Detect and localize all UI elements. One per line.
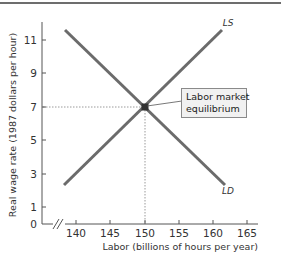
svg-text:5: 5: [30, 134, 37, 146]
svg-text:3: 3: [30, 168, 37, 180]
svg-text:165: 165: [237, 227, 257, 239]
labor-market-chart: 11 9 7 5 3 1 0 140 145 150 155 160 165 L…: [0, 0, 281, 258]
svg-text:1: 1: [30, 201, 37, 213]
svg-text:Labor market: Labor market: [186, 91, 250, 102]
x-ticks: [76, 220, 247, 224]
axis-break-icon: [53, 219, 65, 229]
callout-leader: [147, 101, 182, 106]
x-tick-labels: 140 145 150 155 160 165: [66, 227, 257, 239]
y-tick-labels: 11 9 7 5 3 1 0: [24, 34, 37, 230]
svg-text:140: 140: [66, 227, 86, 239]
svg-text:150: 150: [135, 227, 155, 239]
y-axis-title: Real wage rate (1987 dollars per hour): [7, 33, 18, 217]
ls-label: LS: [223, 18, 234, 28]
x-axis-title: Labor (billions of hours per year): [102, 241, 258, 252]
svg-text:160: 160: [203, 227, 223, 239]
svg-text:155: 155: [169, 227, 189, 239]
svg-text:equilibrium: equilibrium: [186, 103, 240, 114]
svg-text:11: 11: [24, 34, 37, 46]
ld-label: LD: [222, 186, 234, 196]
equilibrium-callout: Labor market equilibrium: [182, 89, 250, 118]
svg-text:9: 9: [30, 67, 37, 79]
svg-text:7: 7: [30, 101, 37, 113]
svg-text:145: 145: [100, 227, 120, 239]
y-ticks: [42, 40, 46, 207]
svg-text:0: 0: [30, 218, 37, 230]
equilibrium-point: [142, 104, 149, 111]
